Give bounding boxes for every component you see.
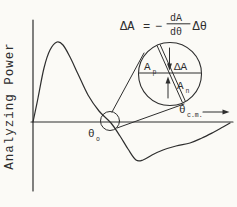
equation-numerator: dA — [170, 13, 182, 24]
zero-crossing-circle — [101, 112, 120, 131]
inset-label-ap: A — [144, 61, 151, 73]
theta-cm-label: θ — [179, 104, 186, 116]
inset-label-an-sub: n — [186, 88, 190, 95]
figure-analyzing-power: Analyzing Power ΔA = − dA dθ Δθ A p ΔA A… — [0, 0, 237, 207]
y-axis-label: Analyzing Power — [3, 42, 17, 170]
theta-zero-label: θ — [88, 128, 95, 140]
inset-label-an: A — [177, 80, 184, 92]
analyzing-power-curve — [33, 42, 230, 161]
theta-cm-sub: c.m. — [187, 112, 203, 119]
x-direction-arrowhead-icon — [223, 109, 230, 114]
inset-label-ap-sub: p — [153, 69, 157, 76]
equation-delta-theta: Δθ — [193, 20, 207, 34]
magnifier-line-lower — [117, 104, 184, 128]
equation-denominator: dθ — [170, 27, 182, 38]
diagram-canvas: Analyzing Power ΔA = − dA dθ Δθ A p ΔA A… — [0, 0, 237, 207]
inset-label-delta-a: ΔA — [174, 61, 188, 73]
equation-minus: − — [155, 20, 162, 34]
equation-delta-a: ΔA — [120, 20, 135, 34]
theta-zero-sub: o — [96, 136, 100, 143]
equation-equals: = — [143, 20, 150, 34]
